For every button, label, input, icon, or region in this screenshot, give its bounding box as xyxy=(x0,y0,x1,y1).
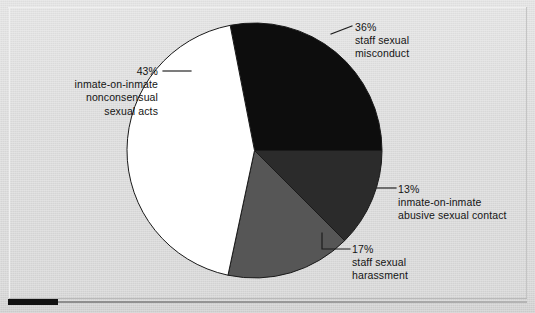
slice-label-line-17-2: harassment xyxy=(352,269,408,282)
leader-line-36 xyxy=(331,26,352,34)
slice-label-inmate-abusive-sexual-contact: 13% inmate-on-inmate abusive sexual cont… xyxy=(398,183,507,223)
slice-label-staff-sexual-misconduct: 36% staff sexual misconduct xyxy=(355,21,409,61)
slice-label-inmate-nonconsensual-sexual-acts: 43% inmate-on-inmate nonconsensual sexua… xyxy=(8,65,158,118)
slice-percent-43: 43% xyxy=(8,65,158,78)
slice-label-staff-sexual-harassment: 17% staff sexual harassment xyxy=(352,243,408,283)
slice-label-line-17-1: staff sexual xyxy=(352,256,408,269)
slice-label-line-43-1: inmate-on-inmate xyxy=(8,78,158,91)
slice-label-line-43-3: sexual acts xyxy=(8,105,158,118)
slice-label-line-36-1: staff sexual xyxy=(355,34,409,47)
slice-percent-13: 13% xyxy=(398,183,507,196)
pie-slice-inmate-on-inmate-nonconsensual-sexual-acts xyxy=(127,25,254,275)
slice-label-line-43-2: nonconsensual xyxy=(8,91,158,104)
pie-chart-svg xyxy=(0,0,535,313)
slice-label-line-13-2: abusive sexual contact xyxy=(398,209,507,222)
slice-label-line-13-1: inmate-on-inmate xyxy=(398,196,507,209)
slice-percent-36: 36% xyxy=(355,21,409,34)
chart-figure: 36% staff sexual misconduct 13% inmate-o… xyxy=(0,0,535,313)
slice-label-line-36-2: misconduct xyxy=(355,47,409,60)
slice-percent-17: 17% xyxy=(352,243,408,256)
pie-slices-group xyxy=(127,23,382,278)
